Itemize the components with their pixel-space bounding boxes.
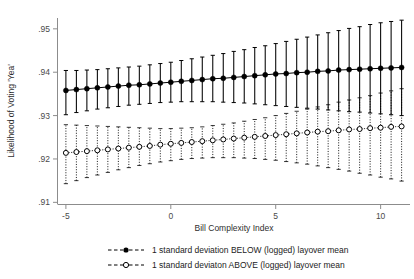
data-point-marker — [147, 81, 152, 86]
data-point-marker — [284, 71, 289, 76]
data-point-marker — [63, 150, 68, 155]
data-point-marker — [399, 65, 404, 70]
data-point-marker — [378, 66, 383, 71]
data-point-marker — [336, 68, 341, 73]
data-point-marker — [74, 87, 79, 92]
data-point-marker — [389, 65, 394, 70]
data-point-marker — [84, 86, 89, 91]
data-point-marker — [95, 148, 100, 153]
data-point-marker — [368, 66, 373, 71]
data-point-marker — [105, 84, 110, 89]
x-tick-label: 0 — [168, 211, 173, 221]
data-point-marker — [137, 144, 142, 149]
data-point-marker — [137, 82, 142, 87]
data-point-marker — [189, 78, 194, 83]
data-point-marker — [242, 135, 247, 140]
y-tick-label: .93 — [38, 111, 50, 121]
data-point-marker — [168, 80, 173, 85]
data-point-marker — [147, 143, 152, 148]
data-point-marker — [105, 147, 110, 152]
x-tick-label: 10 — [376, 211, 386, 221]
chart-background — [0, 0, 414, 279]
data-point-marker — [336, 128, 341, 133]
y-axis-title: Likelihood of Voting 'Yea' — [6, 64, 16, 158]
data-point-marker — [210, 76, 215, 81]
y-tick-label: .95 — [38, 24, 50, 34]
data-point-marker — [158, 81, 163, 86]
data-point-marker — [126, 83, 131, 88]
data-point-marker — [305, 130, 310, 135]
x-tick-label: 5 — [273, 211, 278, 221]
chart-figure: .91.92.93.94.95-50510 Likelihood of Voti… — [0, 0, 414, 279]
data-point-marker — [326, 129, 331, 134]
legend-marker-filled-circle-icon — [123, 247, 128, 252]
data-point-marker — [347, 127, 352, 132]
data-point-marker — [179, 140, 184, 145]
data-point-marker — [200, 139, 205, 144]
data-point-marker — [347, 67, 352, 72]
data-point-marker — [305, 70, 310, 75]
data-point-marker — [326, 68, 331, 73]
legend-marker-open-circle-icon — [123, 262, 128, 267]
data-point-marker — [242, 74, 247, 79]
y-tick-label: .94 — [38, 67, 50, 77]
likelihood-vs-complexity-chart: .91.92.93.94.95-50510 Likelihood of Voti… — [0, 0, 414, 279]
data-point-marker — [315, 69, 320, 74]
data-point-marker — [158, 142, 163, 147]
data-point-marker — [221, 137, 226, 142]
data-point-marker — [294, 131, 299, 136]
x-axis-title: Bill Complexity Index — [195, 223, 275, 233]
data-point-marker — [116, 146, 121, 151]
data-point-marker — [200, 77, 205, 82]
data-point-marker — [368, 126, 373, 131]
data-point-marker — [179, 79, 184, 84]
data-point-marker — [221, 76, 226, 81]
data-point-marker — [252, 134, 257, 139]
data-point-marker — [357, 67, 362, 72]
data-point-marker — [263, 133, 268, 138]
data-point-marker — [63, 88, 68, 93]
data-point-marker — [315, 129, 320, 134]
data-point-marker — [231, 75, 236, 80]
x-tick-label: -5 — [62, 211, 70, 221]
data-point-marker — [399, 124, 404, 129]
data-point-marker — [378, 125, 383, 130]
data-point-marker — [389, 124, 394, 129]
legend-label: 1 standard deviation BELOW (logged) layo… — [152, 245, 349, 255]
data-point-marker — [189, 140, 194, 145]
data-point-marker — [294, 70, 299, 75]
data-point-marker — [168, 141, 173, 146]
data-point-marker — [357, 127, 362, 132]
data-point-marker — [284, 132, 289, 137]
y-tick-label: .91 — [38, 197, 50, 207]
y-tick-label: .92 — [38, 154, 50, 164]
data-point-marker — [263, 72, 268, 77]
data-point-marker — [84, 149, 89, 154]
data-point-marker — [95, 85, 100, 90]
data-point-marker — [116, 84, 121, 89]
data-point-marker — [74, 150, 79, 155]
data-point-marker — [231, 136, 236, 141]
data-point-marker — [252, 73, 257, 78]
data-point-marker — [273, 133, 278, 138]
data-point-marker — [210, 138, 215, 143]
data-point-marker — [273, 71, 278, 76]
data-point-marker — [126, 145, 131, 150]
legend-label: 1 standard deviaton ABOVE (logged) layov… — [152, 260, 345, 270]
